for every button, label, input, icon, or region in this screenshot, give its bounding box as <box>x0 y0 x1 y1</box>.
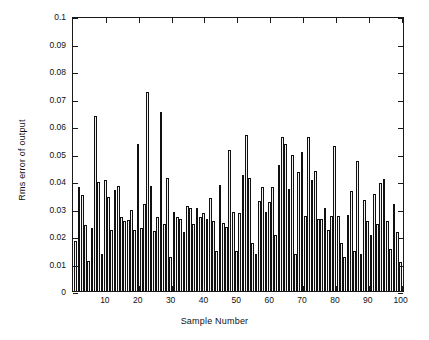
x-tick-top <box>270 18 271 23</box>
x-tick <box>204 286 205 291</box>
x-tick <box>336 286 337 291</box>
y-axis-title: Rms error of output <box>17 70 27 250</box>
x-tick-top <box>369 18 370 23</box>
x-tick-top <box>204 18 205 23</box>
y-tick-label: 0.08 <box>36 68 66 77</box>
x-tick-top <box>303 18 304 23</box>
x-tick-top <box>172 18 173 23</box>
y-tick-right <box>398 266 403 267</box>
x-tick-label: 80 <box>330 296 339 305</box>
y-tick <box>73 211 78 212</box>
x-tick-top <box>402 18 403 23</box>
y-tick-right <box>398 46 403 47</box>
y-tick <box>73 46 78 47</box>
y-tick-label: 0.07 <box>36 95 66 104</box>
y-tick <box>73 101 78 102</box>
x-tick-label: 90 <box>363 296 372 305</box>
y-tick-label: 0.06 <box>36 123 66 132</box>
x-tick-label: 20 <box>133 296 142 305</box>
y-tick-label: 0 <box>36 288 66 297</box>
chart-figure: 00.010.020.030.040.050.060.070.080.090.1… <box>0 0 429 340</box>
x-tick-label: 10 <box>100 296 109 305</box>
x-tick-label: 70 <box>297 296 306 305</box>
y-tick-label: 0.01 <box>36 260 66 269</box>
y-tick <box>73 18 78 19</box>
y-tick-right <box>398 128 403 129</box>
x-tick <box>402 286 403 291</box>
x-tick-top <box>336 18 337 23</box>
y-tick <box>73 266 78 267</box>
y-tick-label: 0.02 <box>36 233 66 242</box>
x-axis-title: Sample Number <box>0 316 429 326</box>
y-tick-label: 0.1 <box>36 13 66 22</box>
x-tick <box>139 286 140 291</box>
y-tick <box>73 73 78 74</box>
x-tick-top <box>139 18 140 23</box>
y-tick <box>73 128 78 129</box>
x-tick <box>369 286 370 291</box>
x-tick-label: 30 <box>166 296 175 305</box>
y-tick-right <box>398 101 403 102</box>
y-tick-label: 0.05 <box>36 150 66 159</box>
y-tick-right <box>398 293 403 294</box>
y-tick-label: 0.03 <box>36 205 66 214</box>
x-tick-label: 60 <box>264 296 273 305</box>
x-tick <box>237 286 238 291</box>
y-tick <box>73 293 78 294</box>
x-tick <box>303 286 304 291</box>
plot-area <box>72 17 404 292</box>
y-tick <box>73 238 78 239</box>
x-tick <box>106 286 107 291</box>
bar-series <box>73 18 403 291</box>
x-tick-top <box>106 18 107 23</box>
x-tick <box>270 286 271 291</box>
x-tick-top <box>237 18 238 23</box>
x-tick-label: 40 <box>199 296 208 305</box>
y-tick-label: 0.04 <box>36 178 66 187</box>
y-tick-right <box>398 156 403 157</box>
x-tick-label: 100 <box>394 296 408 305</box>
y-tick-right <box>398 183 403 184</box>
y-tick-right <box>398 73 403 74</box>
y-tick <box>73 183 78 184</box>
y-tick <box>73 156 78 157</box>
y-tick-label: 0.09 <box>36 40 66 49</box>
x-tick-label: 50 <box>232 296 241 305</box>
y-tick-right <box>398 211 403 212</box>
x-tick <box>172 286 173 291</box>
y-tick-right <box>398 238 403 239</box>
